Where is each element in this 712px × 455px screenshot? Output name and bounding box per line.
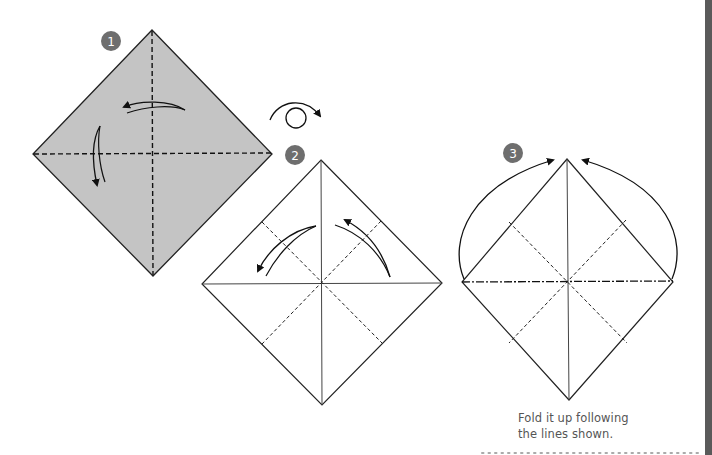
step-1: 1 — [33, 30, 272, 276]
step-3-number: 3 — [509, 147, 517, 161]
origami-diagram: 1 2 3 — [0, 0, 712, 455]
page-edge-bar — [705, 0, 712, 455]
caption-line-1: Fold it up following — [518, 410, 629, 426]
step-3: 3 — [459, 143, 677, 400]
step-2-number: 2 — [291, 149, 299, 163]
step-3-caption: Fold it up following the lines shown. — [518, 410, 629, 442]
step-1-number: 1 — [107, 35, 115, 49]
turn-over-icon — [270, 103, 320, 128]
caption-line-2: the lines shown. — [518, 426, 629, 442]
